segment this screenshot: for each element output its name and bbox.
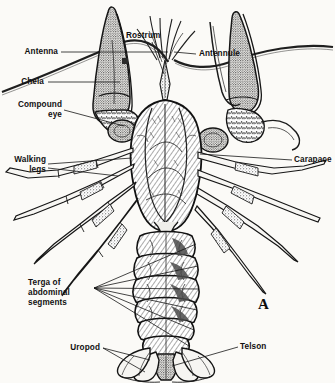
label-uropod: Uropod — [56, 343, 100, 352]
label-walking-legs-line2: legs — [0, 165, 46, 174]
anatomy-figure: Antenna Chela Compound eye Walking legs … — [0, 0, 335, 383]
label-antenna: Antenna — [6, 47, 58, 56]
label-carapace: Carapace — [294, 155, 332, 164]
label-terga-line3: segments — [28, 298, 67, 307]
right-compound-eye — [198, 128, 228, 152]
label-compound-eye-line2: eye — [0, 110, 62, 119]
label-rostrum: Rostrum — [126, 31, 160, 40]
label-antennule: Antennule — [199, 49, 240, 58]
label-walking-legs-line1: Walking — [0, 155, 46, 164]
label-terga-line1: Terga of — [28, 278, 61, 287]
figure-plate-letter: A — [258, 296, 269, 313]
label-chela: Chela — [6, 77, 44, 86]
label-terga-line2: abdominal — [28, 288, 70, 297]
label-telson: Telson — [240, 342, 266, 351]
abdomen-terga — [133, 232, 199, 357]
label-compound-eye-line1: Compound — [0, 100, 62, 109]
crayfish-illustration — [0, 0, 335, 383]
